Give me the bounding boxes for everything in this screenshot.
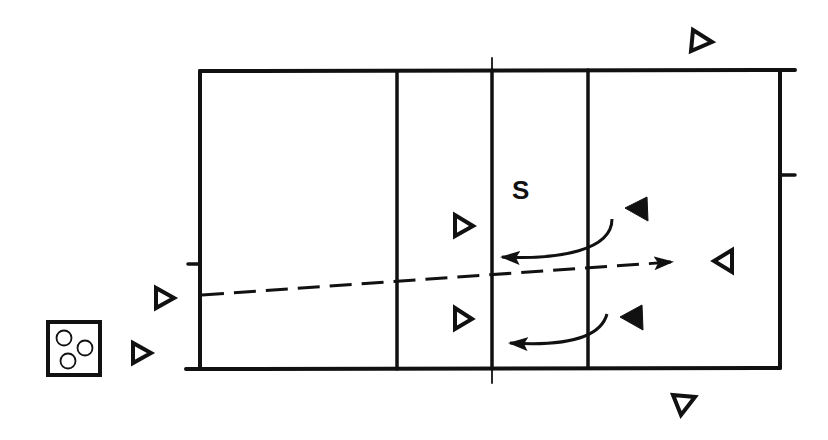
player-filled-triangle-icon	[625, 197, 648, 221]
volleyball-drill-diagram: S	[0, 0, 828, 440]
player-open-triangle-icon	[673, 395, 695, 415]
movement-arrow-upper	[502, 219, 612, 258]
player-open-triangle-icon	[455, 215, 473, 236]
player-open-triangle-icon	[133, 343, 151, 363]
player-open-triangle-icon	[691, 30, 712, 51]
ball-cart	[48, 322, 100, 375]
court-bottom-line	[186, 368, 780, 369]
court-top-line	[200, 70, 795, 71]
player-filled-triangle-icon	[620, 305, 643, 330]
player-open-triangle-icon	[455, 308, 472, 329]
ball-trajectory-dashed-arrow	[202, 262, 672, 295]
player-open-triangle-icon	[156, 288, 174, 308]
player-open-triangle-icon	[714, 250, 732, 272]
team-open-players	[133, 30, 732, 415]
setter-label: S	[512, 175, 529, 205]
movement-arrow-lower	[510, 314, 607, 344]
court	[186, 58, 795, 383]
